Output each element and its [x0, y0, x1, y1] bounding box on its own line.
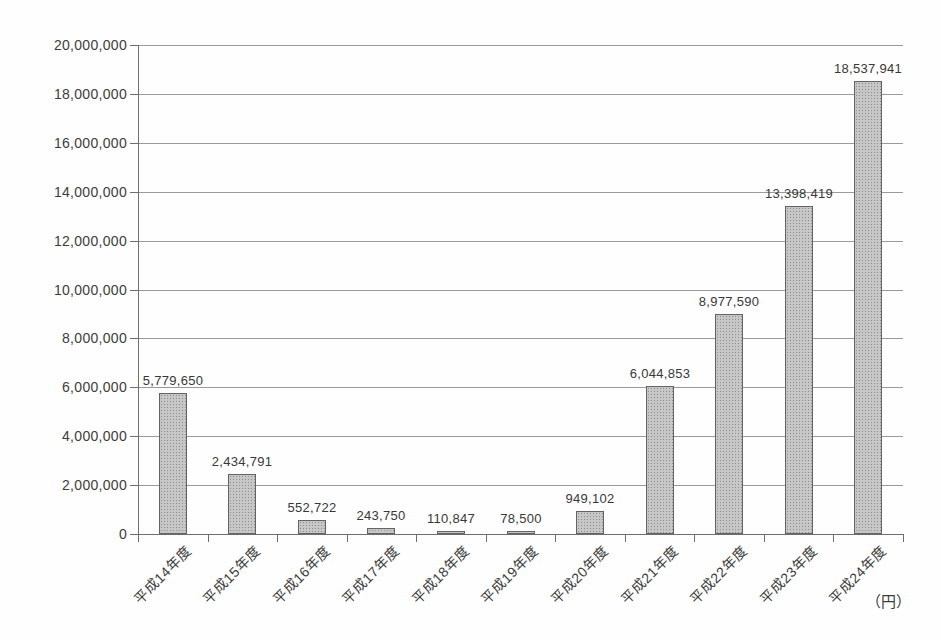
- bar-value-label: 8,977,590: [659, 294, 799, 309]
- y-gridline: [138, 143, 903, 144]
- y-axis-label: 14,000,000: [0, 184, 127, 200]
- x-axis-tick: [416, 534, 417, 542]
- x-axis-label: 平成17年度: [338, 542, 403, 607]
- bar-value-label: 78,500: [451, 511, 591, 526]
- y-axis-tick: [130, 192, 138, 193]
- bar: [646, 386, 674, 534]
- x-axis-tick: [764, 534, 765, 542]
- y-axis-tick: [130, 241, 138, 242]
- bar: [437, 531, 465, 534]
- x-axis-tick: [277, 534, 278, 542]
- x-axis-tick: [833, 534, 834, 542]
- x-axis-tick: [347, 534, 348, 542]
- x-axis-label: 平成19年度: [477, 542, 542, 607]
- x-axis-label: 平成14年度: [130, 542, 195, 607]
- x-axis-tick: [694, 534, 695, 542]
- x-axis-label: 平成18年度: [408, 542, 473, 607]
- y-axis-label: 20,000,000: [0, 37, 127, 53]
- y-axis-tick: [130, 436, 138, 437]
- y-axis-tick: [130, 290, 138, 291]
- y-axis-tick: [130, 534, 138, 535]
- y-axis-label: 0: [0, 526, 127, 542]
- x-axis-tick: [208, 534, 209, 542]
- x-axis-tick: [486, 534, 487, 542]
- y-axis-label: 2,000,000: [0, 477, 127, 493]
- y-axis-label: 4,000,000: [0, 428, 127, 444]
- y-axis-label: 18,000,000: [0, 86, 127, 102]
- x-axis-label: 平成23年度: [756, 542, 821, 607]
- y-gridline: [138, 45, 903, 46]
- bar-value-label: 6,044,853: [590, 366, 730, 381]
- bar-value-label: 13,398,419: [729, 186, 869, 201]
- bar: [715, 314, 743, 534]
- y-axis-tick: [130, 338, 138, 339]
- y-axis-tick: [130, 45, 138, 46]
- bar: [507, 531, 535, 534]
- x-axis-tick: [903, 534, 904, 542]
- x-axis-label: 平成22年度: [686, 542, 751, 607]
- y-axis-label: 8,000,000: [0, 330, 127, 346]
- bar-chart: （円） 02,000,0004,000,0006,000,0008,000,00…: [0, 0, 941, 640]
- x-axis-label: 平成20年度: [547, 542, 612, 607]
- y-axis-tick: [130, 143, 138, 144]
- x-axis-line: [138, 534, 903, 535]
- x-axis-label: 平成15年度: [199, 542, 264, 607]
- y-axis-tick: [130, 485, 138, 486]
- bar-value-label: 5,779,650: [103, 373, 243, 388]
- x-axis-tick: [555, 534, 556, 542]
- bar-value-label: 2,434,791: [172, 454, 312, 469]
- y-axis-label: 10,000,000: [0, 282, 127, 298]
- y-gridline: [138, 94, 903, 95]
- bar: [785, 206, 813, 534]
- bar-value-label: 949,102: [520, 491, 660, 506]
- y-axis-tick: [130, 94, 138, 95]
- y-axis-label: 12,000,000: [0, 233, 127, 249]
- x-axis-tick: [625, 534, 626, 542]
- unit-label: （円）: [866, 590, 911, 611]
- bar: [854, 81, 882, 534]
- x-axis-label: 平成21年度: [617, 542, 682, 607]
- y-axis-label: 16,000,000: [0, 135, 127, 151]
- bar-value-label: 18,537,941: [798, 61, 938, 76]
- x-axis-tick: [138, 534, 139, 542]
- bar: [367, 528, 395, 534]
- bar: [576, 511, 604, 534]
- y-axis-line: [138, 45, 139, 534]
- x-axis-label: 平成16年度: [269, 542, 334, 607]
